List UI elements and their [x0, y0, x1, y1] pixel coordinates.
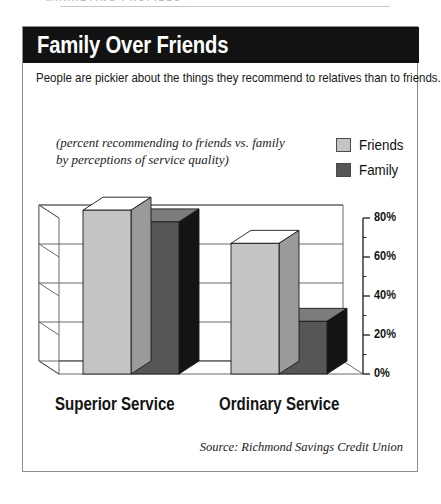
chart-caption: (percent recommending to friends vs. fam… [56, 135, 306, 168]
intro-text: People are pickier about the things they… [36, 71, 384, 85]
running-head-rule [60, 6, 390, 7]
legend-item-family: Family [336, 161, 407, 178]
y-axis-tick-80pct: 80% [374, 210, 396, 224]
legend-label-friends: Friends [359, 137, 403, 153]
source-note: Source: Richmond Savings Credit Union [200, 440, 403, 455]
legend-swatch-friends [336, 138, 351, 152]
y-axis-tick-0pct: 0% [374, 366, 390, 380]
figure-box: Family Over Friends People are pickier a… [22, 26, 418, 472]
x-axis-label-superior: Superior Service [55, 394, 175, 415]
legend-label-family: Family [359, 162, 398, 178]
title-bar: Family Over Friends [23, 27, 419, 63]
legend-swatch-family [336, 163, 351, 177]
x-axis-label-ordinary: Ordinary Service [219, 394, 339, 415]
caption-line-2: by perceptions of service quality) [56, 152, 229, 167]
y-axis-tick-40pct: 40% [374, 288, 396, 302]
y-axis-tick-60pct: 60% [374, 249, 396, 263]
caption-line-1: (percent recommending to friends vs. fam… [56, 135, 285, 150]
running-head-text: MARKETING PROFILES [46, 0, 182, 3]
y-axis-tick-20pct: 20% [374, 327, 396, 341]
legend-item-friends: Friends [336, 136, 407, 153]
chart-legend: Friends Family [336, 136, 407, 186]
running-head: MARKETING PROFILES [0, 0, 440, 9]
page-title: Family Over Friends [37, 32, 228, 59]
